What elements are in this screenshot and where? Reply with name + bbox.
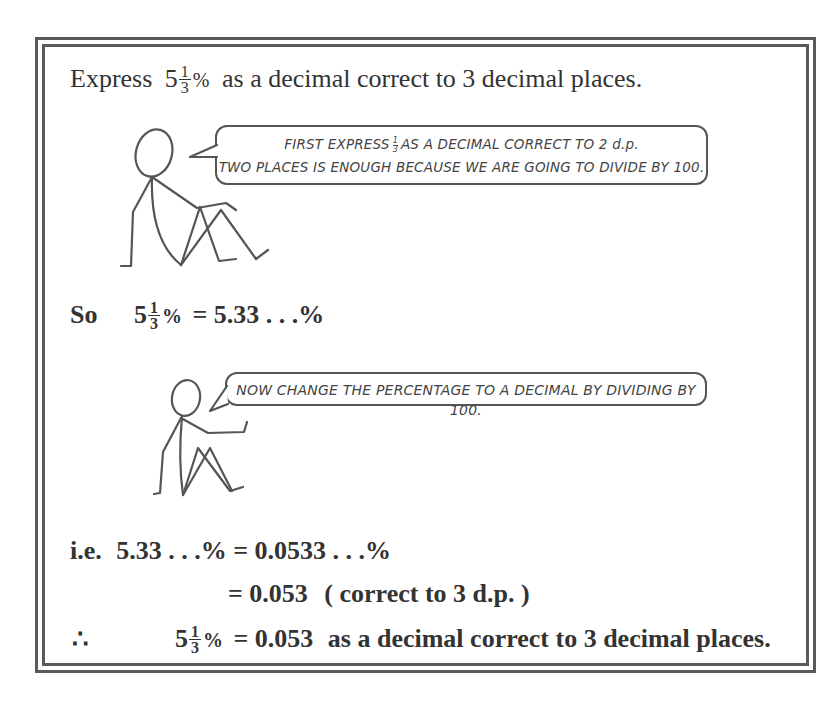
step2-line: i.e. 5.33 . . .% = 0.0533 . . .% xyxy=(70,536,391,566)
conclusion-suffix: as a decimal correct to 3 decimal places… xyxy=(328,624,771,653)
step3-rhs: = 0.053 xyxy=(228,579,308,608)
percent-sign: % xyxy=(203,629,223,651)
fraction: 13 xyxy=(189,624,201,655)
step2-label: i.e. xyxy=(70,536,102,565)
step3-note: ( correct to 3 d.p. ) xyxy=(324,579,529,608)
numerator: 1 xyxy=(189,624,201,640)
step3-line: = 0.053 ( correct to 3 d.p. ) xyxy=(228,579,530,609)
conclusion-mixed-number: 513% xyxy=(175,624,223,653)
step2-rhs: = 0.0533 . . .% xyxy=(233,536,391,565)
therefore-symbol: ∴ xyxy=(72,624,89,655)
denominator: 3 xyxy=(189,640,201,655)
conclusion-line: 513% = 0.053 as a decimal correct to 3 d… xyxy=(175,624,771,657)
step2-lhs: 5.33 . . .% xyxy=(116,536,227,565)
conclusion-rhs: = 0.053 xyxy=(234,624,314,653)
whole-part: 5 xyxy=(175,624,188,653)
